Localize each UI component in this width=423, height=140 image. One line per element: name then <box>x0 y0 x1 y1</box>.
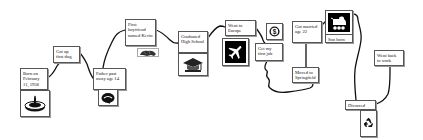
event-boyfriend-label: First boyfriend named Kevin <box>125 19 156 46</box>
tombstone-icon <box>98 89 118 106</box>
event-text: Went to Europe <box>228 23 242 34</box>
event-text: Get my first job <box>258 46 272 57</box>
birthday-cake-icon <box>20 90 50 117</box>
event-text: Son born <box>328 37 345 42</box>
event-text: Graduated High School <box>181 34 204 45</box>
baby-carriage-icon <box>325 10 353 35</box>
event-text: Born on February 11, 1958 <box>23 71 40 87</box>
graduation-cap-icon <box>178 53 208 76</box>
event-father-label: Father past away age 14 <box>93 68 126 90</box>
event-text: Got married age 22 <box>295 24 317 35</box>
event-married-label: Got married age 22 <box>292 21 322 43</box>
event-born-label: Born on February 11, 1958 <box>20 68 48 90</box>
event-text: Got up first dog <box>56 49 71 60</box>
event-text: Went back to work <box>377 53 396 64</box>
recycle-icon <box>360 110 377 137</box>
event-graduated-label: Graduated High School <box>178 31 208 53</box>
event-europe-label: Went to Europe <box>225 20 256 36</box>
timeline-diagram: Born on February 11, 1958 Got up first d… <box>0 0 423 140</box>
animal-icon <box>137 48 159 57</box>
dollar-icon: $ <box>266 23 283 40</box>
event-text: Divorced <box>348 103 365 108</box>
event-work-label: Went back to work <box>374 50 404 66</box>
event-text: Moved to Springfield <box>295 70 316 81</box>
event-divorced-label: Divorced <box>345 100 376 110</box>
event-moved-label: Moved to Springfield <box>292 67 319 83</box>
svg-text:$: $ <box>273 28 277 36</box>
event-dog-label: Got up first dog <box>53 46 80 63</box>
airplane-icon <box>222 38 249 66</box>
event-job-label: Get my first job <box>255 43 283 61</box>
event-text: Father past away age 14 <box>96 71 119 82</box>
event-text: First boyfriend named Kevin <box>128 22 153 38</box>
event-son-label: Son born <box>325 34 353 43</box>
